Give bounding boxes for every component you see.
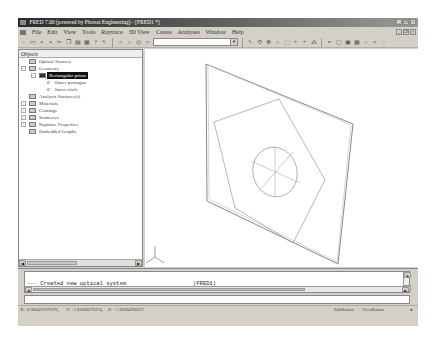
copy-icon[interactable]: ❐	[65, 39, 72, 46]
menu-3d-view[interactable]: 3D View	[129, 29, 150, 35]
print-icon[interactable]: ▦	[83, 39, 90, 46]
scroll-thumb[interactable]	[27, 261, 77, 265]
open-icon[interactable]: ▭	[29, 39, 36, 46]
trace-icon[interactable]: ≡	[326, 39, 333, 46]
rotate-icon[interactable]: ⟲	[256, 39, 263, 46]
close-button[interactable]: ×	[410, 19, 416, 25]
new-icon[interactable]: ▫	[20, 39, 27, 46]
doc-close-button[interactable]: ×	[410, 29, 416, 35]
3d-viewport[interactable]	[145, 49, 418, 267]
zoom-all-icon[interactable]: ⌕	[126, 39, 133, 46]
tree-item-analysis-surfaces[interactable]: Analysis Surfaces(s)	[19, 93, 142, 100]
scroll-left-icon[interactable]: ◀	[19, 260, 26, 266]
tree-horizontal-scrollbar[interactable]: ◀ ▶	[19, 259, 142, 266]
menu-analyses[interactable]: Analyses	[178, 29, 200, 35]
status-icon: ●	[410, 306, 413, 314]
chevron-down-icon[interactable]: ▼	[230, 39, 237, 45]
object-tree: Objects Optical Sources − Geometry − Rec…	[18, 49, 143, 267]
geometry-drawing	[145, 49, 418, 267]
tree-item-inner-circle[interactable]: Ȼ Inner circle	[19, 86, 142, 93]
doc-minimize-button[interactable]: _	[396, 29, 402, 35]
output-horizontal-scrollbar[interactable]: ◀ ▶	[25, 286, 409, 292]
zoom-window-icon[interactable]: ⬚	[283, 39, 290, 46]
menu-window[interactable]: Window	[206, 29, 226, 35]
toolbar-separator	[321, 38, 322, 47]
tree-item-optical-sources[interactable]: Optical Sources	[19, 58, 142, 65]
display-icon[interactable]: ▦	[353, 39, 360, 46]
folder-icon	[29, 129, 36, 134]
curve-icon: Ȼ	[47, 79, 50, 86]
toolbar: ▫ ▭ ▪ ▪ ✂ ❐ ▤ ▦ ? ↖ ⌕ ⌕ ◎ ▿ ▼ ↖ ⟲ ✥ ⌕ ⬚ …	[18, 37, 418, 48]
lighting-icon[interactable]: ☼	[362, 39, 369, 46]
zoom-icon[interactable]: ⌕	[117, 39, 124, 46]
expand-icon[interactable]: +	[21, 122, 26, 127]
title-bar: FRED 7.00 (powered by Photon Engineering…	[18, 18, 418, 27]
menu-file[interactable]: File	[32, 29, 41, 35]
zoom-view-icon[interactable]: ⌕	[274, 39, 281, 46]
help-icon[interactable]: ?	[92, 39, 99, 46]
object-combo[interactable]: ▼	[153, 38, 238, 46]
application-window: FRED 7.00 (powered by Photon Engineering…	[18, 18, 418, 326]
target-icon[interactable]: ◎	[135, 39, 142, 46]
options-icon[interactable]: ◌	[380, 39, 387, 46]
render-icon[interactable]: ▢	[335, 39, 342, 46]
collapse-icon[interactable]: −	[21, 66, 26, 71]
menu-create[interactable]: Create	[156, 29, 172, 35]
tree-item-embedded-graphs[interactable]: Embedded Graphs	[19, 128, 142, 135]
menu-view[interactable]: View	[63, 29, 76, 35]
restore-button[interactable]: ❐	[403, 19, 409, 25]
collapse-icon[interactable]: −	[31, 73, 36, 78]
curve-icon: Ȼ	[47, 86, 50, 93]
edit-mode-indicator: EditButton	[334, 306, 354, 314]
cut-icon[interactable]: ✂	[56, 39, 63, 46]
window-title: FRED 7.00 (powered by Photon Engineering…	[29, 19, 159, 25]
menu-bar: File Edit View Tools Raytrace 3D View Cr…	[18, 27, 418, 37]
tree-item-raytrace-properties[interactable]: + Raytrace Properties	[19, 121, 142, 128]
yz-icon[interactable]: +	[301, 39, 308, 46]
scroll-right-icon[interactable]: ▶	[402, 287, 409, 292]
tree-item-rectangular-prism[interactable]: − Rectangular prism	[19, 72, 142, 79]
tree-item-scatterers[interactable]: + Scatterers	[19, 114, 142, 121]
minimize-button[interactable]: _	[396, 19, 402, 25]
folder-icon	[29, 94, 36, 99]
tree-header: Objects	[19, 50, 142, 58]
scroll-up-icon[interactable]: ▲	[404, 272, 411, 278]
menu-tools[interactable]: Tools	[82, 29, 95, 35]
context-help-icon[interactable]: ↖	[101, 39, 108, 46]
doc-restore-button[interactable]: ❐	[403, 29, 409, 35]
scroll-right-icon[interactable]: ▶	[135, 260, 142, 266]
x-coordinate: X: -0.906457679376,	[20, 306, 59, 314]
layer-icon[interactable]: ▣	[344, 39, 351, 46]
scroll-thumb[interactable]	[33, 288, 305, 291]
folder-icon	[29, 59, 36, 64]
save-all-icon[interactable]: ▪	[47, 39, 54, 46]
settings-icon[interactable]: ▿	[371, 39, 378, 46]
iso-icon[interactable]: ⁂	[310, 39, 317, 46]
expand-icon[interactable]: +	[21, 108, 26, 113]
app-icon	[20, 20, 26, 25]
tree-item-outer-pentagon[interactable]: Ȼ Outer pentagon	[19, 79, 142, 86]
command-input[interactable]	[24, 295, 410, 304]
menu-raytrace[interactable]: Raytrace	[101, 29, 122, 35]
expand-icon[interactable]: +	[21, 115, 26, 120]
folder-icon	[29, 122, 36, 127]
tree-item-materials[interactable]: + Materials	[19, 100, 142, 107]
filter-icon[interactable]: ▿	[144, 39, 151, 46]
pan-icon[interactable]: ✥	[265, 39, 272, 46]
select-icon[interactable]: ↖	[247, 39, 254, 46]
folder-icon	[29, 108, 36, 113]
scroll-left-icon[interactable]: ◀	[25, 287, 32, 292]
tree-item-coatings[interactable]: + Coatings	[19, 107, 142, 114]
toolbar-separator	[242, 38, 243, 47]
menu-help[interactable]: Help	[232, 29, 244, 35]
output-window[interactable]: --- Created new optical system (FRED1) ▲…	[24, 271, 410, 293]
document-icon[interactable]	[20, 30, 26, 35]
paste-icon[interactable]: ▤	[74, 39, 81, 46]
folder-icon	[29, 115, 36, 120]
xy-icon[interactable]: +	[292, 39, 299, 46]
expand-icon[interactable]: +	[21, 101, 26, 106]
element-icon	[39, 73, 46, 78]
save-icon[interactable]: ▪	[38, 39, 45, 46]
tree-item-geometry[interactable]: − Geometry	[19, 65, 142, 72]
menu-edit[interactable]: Edit	[47, 29, 57, 35]
